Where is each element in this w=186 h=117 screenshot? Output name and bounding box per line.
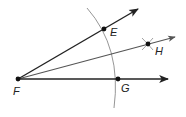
label-e: E [110,26,118,38]
point-g [116,77,121,82]
point-h [146,42,151,47]
point-e [102,27,107,32]
label-h: H [155,45,163,57]
label-f: F [13,85,21,97]
label-g: G [121,82,130,94]
ray-fh-bisector [18,37,175,79]
ray-fe [18,9,138,79]
compass-arc [87,8,115,108]
angle-bisector-diagram: F E H G [0,0,186,117]
point-f [16,77,21,82]
